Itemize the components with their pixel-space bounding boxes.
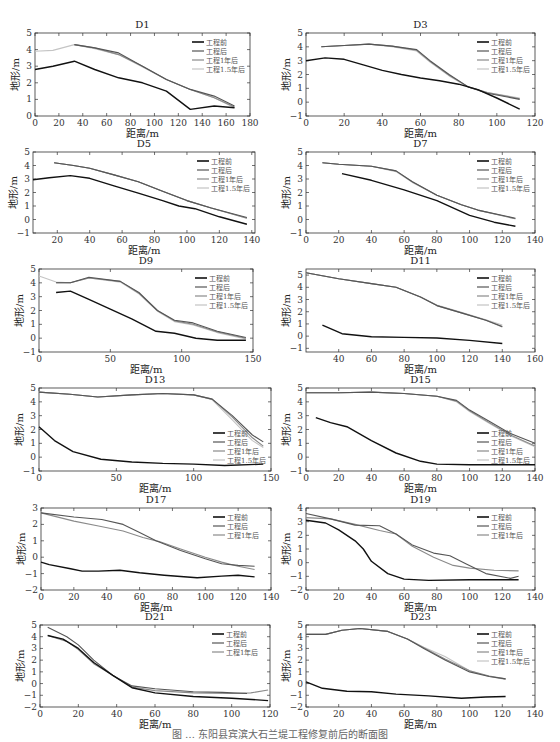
svg-text:150: 150 xyxy=(262,473,279,483)
svg-text:0: 0 xyxy=(24,215,30,225)
legend-entry: 工程1年后 xyxy=(209,292,241,301)
y-axis-label: 地形/m xyxy=(280,649,292,682)
legend-entry: 工程1年后 xyxy=(491,531,523,540)
svg-text:40: 40 xyxy=(366,709,378,719)
y-axis-label: 地形/m xyxy=(13,413,25,446)
svg-text:100: 100 xyxy=(461,592,478,602)
svg-text:80: 80 xyxy=(188,709,200,719)
svg-text:140: 140 xyxy=(243,235,260,245)
svg-text:2: 2 xyxy=(297,655,303,665)
legend: 工程前工程后工程1年后工程1.5年后 xyxy=(213,429,266,465)
svg-text:140: 140 xyxy=(494,354,511,364)
svg-text:0: 0 xyxy=(303,235,309,245)
svg-text:−1: −1 xyxy=(23,347,36,357)
svg-text:20: 20 xyxy=(333,473,345,483)
legend: 工程前工程后工程1年后工程1.5年后 xyxy=(195,274,248,310)
svg-text:0: 0 xyxy=(38,592,44,602)
legend-entry: 工程前 xyxy=(491,429,512,438)
legend-entry: 工程前 xyxy=(491,513,512,522)
svg-text:100: 100 xyxy=(178,235,195,245)
series-line xyxy=(35,61,235,109)
y-axis-label: 地形/m xyxy=(9,58,21,91)
svg-text:2: 2 xyxy=(297,188,303,198)
legend-entry: 工程1年后 xyxy=(491,56,523,65)
legend: 工程前工程后工程1年后 xyxy=(477,513,523,540)
svg-text:3: 3 xyxy=(297,56,303,66)
legend-entry: 工程前 xyxy=(226,630,247,639)
svg-text:100: 100 xyxy=(197,592,214,602)
svg-text:120: 120 xyxy=(494,235,511,245)
svg-text:100: 100 xyxy=(428,354,445,364)
svg-text:140: 140 xyxy=(526,473,543,483)
y-axis-label: 地形/m xyxy=(280,58,292,91)
svg-text:−2: −2 xyxy=(25,585,38,595)
svg-text:−1: −1 xyxy=(290,466,303,476)
legend-entry: 工程1年后 xyxy=(211,175,243,184)
svg-text:60: 60 xyxy=(134,592,146,602)
svg-text:2: 2 xyxy=(297,425,303,435)
series-line xyxy=(306,392,535,446)
svg-text:2: 2 xyxy=(297,530,303,540)
series-line xyxy=(322,163,515,218)
chart-d19: D19020406080100120140−2−101234距离/m地形/m工程… xyxy=(280,494,544,613)
svg-text:100: 100 xyxy=(173,354,190,364)
x-axis-label: 距离/m xyxy=(404,482,437,494)
svg-text:120: 120 xyxy=(261,709,278,719)
svg-text:0: 0 xyxy=(32,552,38,562)
legend-entry: 工程前 xyxy=(227,429,248,438)
svg-text:20: 20 xyxy=(73,709,85,719)
svg-text:1: 1 xyxy=(30,319,36,329)
legend-entry: 工程前 xyxy=(209,274,230,283)
svg-text:0: 0 xyxy=(32,118,38,128)
svg-text:5: 5 xyxy=(297,147,303,157)
legend: 工程前工程后工程1年后工程1.5年后 xyxy=(477,429,530,465)
legend-entry: 工程1年后 xyxy=(491,447,523,456)
svg-text:1: 1 xyxy=(297,544,303,554)
svg-text:120: 120 xyxy=(461,354,478,364)
legend-entry: 工程1.5年后 xyxy=(491,456,530,465)
chart-title: D7 xyxy=(413,138,427,149)
svg-text:1: 1 xyxy=(26,94,32,104)
chart-d23: D23020406080100120140−2−1012345距离/m地形/m工… xyxy=(280,611,544,730)
svg-text:1: 1 xyxy=(30,438,36,448)
svg-text:40: 40 xyxy=(77,118,89,128)
svg-text:20: 20 xyxy=(68,592,80,602)
svg-text:80: 80 xyxy=(431,709,443,719)
svg-text:3: 3 xyxy=(297,174,303,184)
svg-text:160: 160 xyxy=(526,354,543,364)
svg-text:2: 2 xyxy=(30,306,36,316)
svg-text:100: 100 xyxy=(185,473,202,483)
svg-text:0: 0 xyxy=(36,473,42,483)
legend-entry: 工程后 xyxy=(227,522,248,531)
figure-grid: D1020406080100120140160180012345距离/m地形/m… xyxy=(0,0,560,742)
chart-title: D15 xyxy=(410,374,431,385)
svg-text:−1: −1 xyxy=(290,571,303,581)
svg-text:100: 100 xyxy=(146,118,163,128)
legend-entry: 工程前 xyxy=(206,38,227,47)
legend: 工程前工程后工程1年后 xyxy=(213,513,259,540)
series-line xyxy=(306,58,520,109)
legend-entry: 工程1.5年后 xyxy=(491,65,530,74)
series-line xyxy=(39,392,263,446)
legend-entry: 工程1年后 xyxy=(491,292,523,301)
svg-text:0: 0 xyxy=(26,111,32,121)
legend-entry: 工程后 xyxy=(491,522,512,531)
legend: 工程前工程后工程1年后工程1.5年后 xyxy=(197,157,250,193)
svg-text:140: 140 xyxy=(194,118,211,128)
svg-text:80: 80 xyxy=(453,118,465,128)
svg-text:0: 0 xyxy=(303,709,309,719)
legend-entry: 工程1.5年后 xyxy=(227,456,266,465)
legend-entry: 工程前 xyxy=(491,630,512,639)
svg-text:3: 3 xyxy=(30,411,36,421)
series-line xyxy=(306,273,502,327)
legend-entry: 工程后 xyxy=(491,47,512,56)
svg-text:3: 3 xyxy=(24,174,30,184)
svg-text:150: 150 xyxy=(244,354,261,364)
svg-text:0: 0 xyxy=(303,473,309,483)
svg-text:4: 4 xyxy=(26,45,32,55)
svg-text:5: 5 xyxy=(30,383,36,393)
svg-text:2: 2 xyxy=(297,307,303,317)
series-line xyxy=(321,44,519,99)
legend: 工程前工程后工程1年后工程1.5年后 xyxy=(192,38,245,74)
y-axis-label: 地形/m xyxy=(280,176,292,209)
